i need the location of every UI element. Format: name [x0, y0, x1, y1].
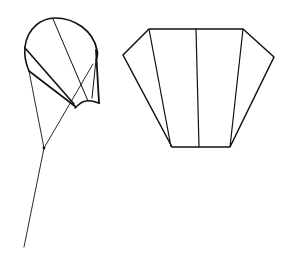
spar-center [196, 29, 199, 147]
kite-diagram [0, 0, 293, 253]
canopy-rib-center [53, 19, 88, 101]
bridle-line-left [29, 71, 44, 148]
canopy-rib-left-lower [29, 71, 76, 107]
canopy-rib-left-upper [25, 48, 74, 104]
parafoil-kite [24, 18, 99, 247]
spar-left [149, 29, 171, 147]
diagram-canvas [0, 0, 293, 253]
canopy-inner-right-edge [92, 60, 96, 98]
spar-right [230, 29, 243, 147]
tow-line [24, 148, 44, 247]
canopy-trailing-edge [75, 101, 99, 108]
bridle-line-right [44, 64, 93, 148]
sled-kite [123, 29, 274, 147]
